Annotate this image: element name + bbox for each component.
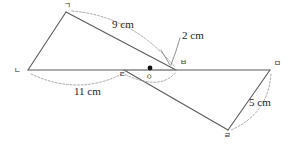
vertex-label-b: ㅂ [180, 59, 187, 67]
geometry-figure: ㄱ ㄴ ㄷ ㄹ ㅁ ㅂ ㅇ 9 cm 2 cm 11 cm 5 cm [0, 0, 297, 148]
vertex-label-o: ㅇ [146, 74, 152, 81]
leader-2cm [171, 38, 180, 65]
edge-g-n [28, 12, 66, 70]
vertex-label-m: ㅁ [274, 60, 281, 68]
vertex-label-r: ㄹ [224, 132, 231, 140]
arc-11cm [31, 74, 122, 85]
measure-label-9cm: 9 cm [112, 19, 134, 30]
measure-label-11cm: 11 cm [74, 86, 101, 97]
vertex-label-g: ㄱ [64, 2, 71, 10]
edge-d-r [124, 70, 228, 130]
vertex-label-n: ㄴ [14, 67, 21, 75]
measure-label-2cm: 2 cm [182, 30, 204, 41]
vertex-label-d: ㄷ [119, 71, 126, 79]
midpoint-dot [148, 66, 153, 71]
measure-label-5cm: 5 cm [249, 97, 271, 108]
